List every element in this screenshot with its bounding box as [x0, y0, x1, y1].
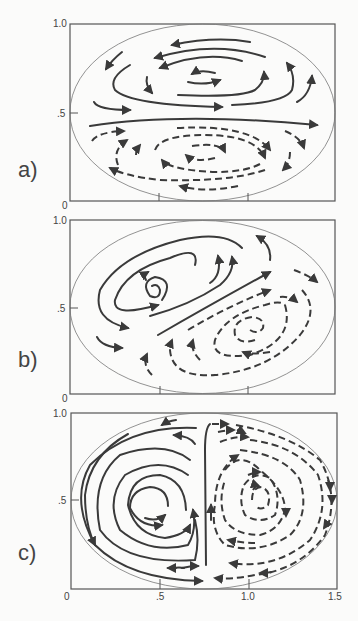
panel-a-dashed-streamlines — [92, 127, 304, 189]
panel-c-ytick-1: 1.0 — [53, 408, 67, 419]
panel-a-ytick-05: .5 — [57, 108, 66, 119]
panel-c-label: c) — [18, 540, 36, 565]
panel-c-xtick-05: .5 — [156, 591, 165, 602]
panel-b-dashed-streamlines — [145, 270, 317, 375]
panel-b-label: b) — [18, 347, 38, 372]
panel-a-frame — [70, 24, 335, 201]
panel-a-ytick-0: 0 — [62, 200, 68, 211]
panel-b-solid-streamlines — [97, 236, 270, 348]
panel-c-dividing-streamline — [205, 424, 210, 565]
panel-a-solid-streamlines — [90, 40, 317, 126]
panel-a-label: a) — [18, 157, 38, 182]
panel-labels: a) b) c) — [18, 157, 38, 565]
panel-b-basin-ellipse — [70, 221, 335, 394]
panel-c-dashed-streamlines — [212, 424, 332, 579]
panel-a-basin-ellipse — [70, 24, 335, 201]
panel-c-xtick-10: 1.0 — [241, 591, 255, 602]
panel-c-ytick-05: .5 — [58, 495, 67, 506]
panel-c-xtick-15: 1.5 — [328, 591, 342, 602]
figure-canvas: 1.0 .5 0 1.0 .5 0 1.0 .5 0 .5 1.0 1.5 a)… — [0, 0, 358, 621]
panel-a — [70, 24, 335, 201]
panel-c — [71, 413, 337, 589]
panel-b-ytick-05: .5 — [57, 303, 66, 314]
panel-c-solid-streamlines — [81, 420, 202, 581]
panel-c-basin-ellipse — [71, 413, 337, 589]
panel-c-xtick-0: 0 — [64, 591, 70, 602]
panel-b-ytick-1: 1.0 — [53, 215, 67, 226]
panel-b-ytick-0: 0 — [62, 393, 68, 404]
panel-b — [70, 220, 335, 394]
panel-b-frame — [70, 220, 335, 394]
panel-c-frame — [71, 413, 337, 589]
panel-a-ytick-1: 1.0 — [53, 18, 67, 29]
